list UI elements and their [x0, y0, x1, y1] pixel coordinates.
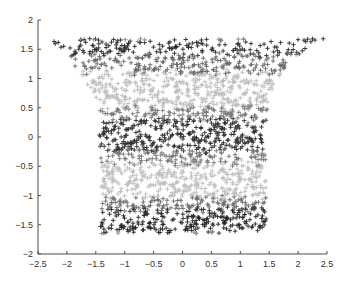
y-axis-ticks: 21.510.50−0.5−1−1.5−2: [15, 15, 41, 259]
scatter-chart: −2.5−2−1.5−1−0.500.511.522.5 21.510.50−0…: [0, 0, 351, 283]
y-tick-label: −2: [23, 249, 33, 259]
x-tick-label: 1.5: [263, 259, 276, 269]
plus-marker-group: [99, 158, 268, 204]
y-tick-label: 1.5: [20, 44, 33, 54]
scatter-points: [52, 37, 325, 236]
x-tick-label: 0: [180, 259, 185, 269]
x-tick-label: −1.5: [87, 259, 105, 269]
x-tick-label: −2: [62, 259, 72, 269]
x-tick-label: 2.5: [321, 259, 334, 269]
y-tick-label: −0.5: [15, 161, 33, 171]
x-tick-label: −2.5: [29, 259, 47, 269]
x-tick-label: −1: [120, 259, 130, 269]
y-tick-label: 1: [28, 74, 33, 84]
y-tick-label: 0.5: [20, 103, 33, 113]
x-tick-label: 1: [238, 259, 243, 269]
x-tick-label: −0.5: [145, 259, 163, 269]
y-tick-label: −1: [23, 191, 33, 201]
y-tick-label: 2: [28, 15, 33, 25]
y-tick-label: 0: [28, 132, 33, 142]
y-tick-label: −1.5: [15, 220, 33, 230]
x-tick-label: 0.5: [205, 259, 218, 269]
x-tick-label: 2: [296, 259, 301, 269]
